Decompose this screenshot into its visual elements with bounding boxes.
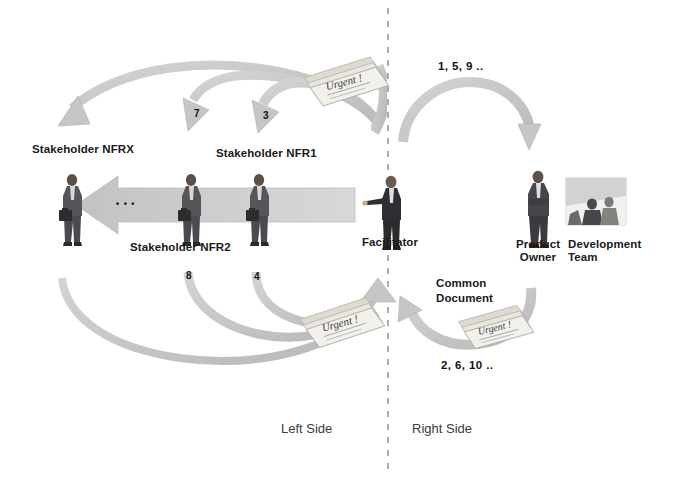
figure-stakeholder-nfrx [59, 174, 82, 246]
figure-stakeholder-nfr2 [178, 174, 201, 246]
flow-number-3: 3 [263, 110, 269, 121]
label-development-team-line1: Development [568, 238, 641, 251]
label-left-side: Left Side [281, 421, 332, 436]
flow-number-8: 8 [186, 270, 192, 281]
diagram-canvas: Urgent ! Urgent ! Urgent ! [0, 0, 677, 501]
flow-number-4: 4 [254, 271, 260, 282]
label-common-document-line1: Common [436, 276, 493, 291]
photo-development-team [566, 178, 626, 225]
label-common-document: Common Document [436, 276, 493, 306]
label-product-owner-line1: Product [507, 238, 569, 251]
flow-sequence-right-bottom: 2, 6, 10 .. [441, 359, 493, 371]
label-stakeholder-nfr2: Stakeholder NFR2 [130, 241, 231, 254]
label-development-team: Development Team [568, 238, 641, 264]
arc-facilitator-to-product-owner [403, 82, 541, 150]
figure-stakeholder-nfr1 [246, 174, 269, 246]
chain-ellipsis: • • • [116, 199, 135, 209]
label-stakeholder-nfr1: Stakeholder NFR1 [216, 147, 317, 160]
label-facilitator: Facilitator [362, 236, 418, 249]
label-common-document-line2: Document [436, 291, 493, 306]
label-product-owner-line2: Owner [507, 251, 569, 264]
label-right-side: Right Side [412, 421, 472, 436]
flow-sequence-right-top: 1, 5, 9 .. [438, 60, 484, 72]
label-product-owner: Product Owner [507, 238, 569, 264]
label-stakeholder-nfrx: Stakeholder NFRX [32, 143, 134, 156]
figure-product-owner [528, 171, 549, 248]
label-development-team-line2: Team [568, 251, 641, 264]
flow-number-7: 7 [194, 108, 200, 119]
